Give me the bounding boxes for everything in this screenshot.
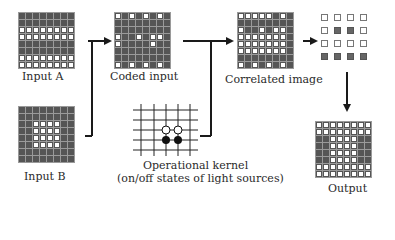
connector-kernel-vertical — [210, 40, 212, 136]
light-source-off-icon — [174, 126, 182, 134]
kernel-label-line2: (on/off states of light sources) — [117, 172, 284, 185]
connector-b-horizontal — [85, 135, 92, 137]
connector-kernel-horizontal — [200, 135, 211, 137]
arrow-down-to-output — [343, 104, 351, 112]
arrow-right-to-coded — [104, 37, 112, 45]
arrow-right-to-correlated — [226, 37, 234, 45]
connector-coded-horizontal — [183, 40, 228, 42]
light-source-on-icon — [162, 136, 170, 144]
light-source-on-icon — [174, 136, 182, 144]
connector-down-vertical — [346, 72, 348, 106]
kernel-label-line1: Operational kernel — [143, 159, 248, 172]
light-source-off-icon — [162, 126, 170, 134]
connector-b-vertical — [91, 40, 93, 136]
arrow-right-to-subsampled — [310, 37, 318, 45]
